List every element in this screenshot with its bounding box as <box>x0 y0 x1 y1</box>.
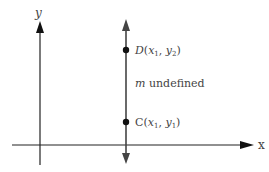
x-axis-arrow-icon <box>240 141 254 149</box>
y-axis-label: y <box>34 6 42 20</box>
slope-undefined-label: m undefined <box>135 77 205 90</box>
x-axis <box>12 141 254 149</box>
vertical-line <box>122 19 130 164</box>
point-c <box>123 119 129 125</box>
y-axis <box>36 21 44 165</box>
point-c-label: C(x1, y1) <box>135 116 180 130</box>
vertical-line-diagram: y x D(x1, y2) m undefined C(x1, y1) <box>0 0 269 172</box>
y-axis-arrow-icon <box>36 21 44 33</box>
point-d-label: D(x1, y2) <box>134 44 181 58</box>
up-arrow-icon <box>122 19 130 31</box>
down-arrow-icon <box>122 153 130 164</box>
x-axis-label: x <box>258 138 265 152</box>
point-d <box>123 47 129 53</box>
